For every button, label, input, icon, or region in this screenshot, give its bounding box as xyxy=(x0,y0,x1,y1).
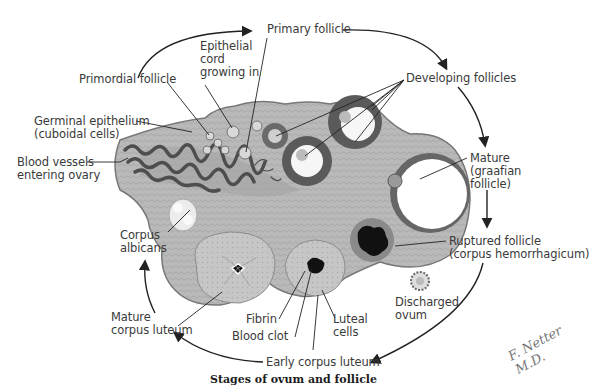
label-primary-follicle: Primary follicle xyxy=(267,23,351,36)
label-discharged-ovum: Discharged ovum xyxy=(395,296,459,322)
label-corpus-albicans: Corpus albicans xyxy=(120,229,167,255)
label-early-corpus-luteum: Early corpus luteum xyxy=(266,356,380,369)
label-primordial-follicle: Primordial follicle xyxy=(79,73,176,86)
label-ruptured-follicle: Ruptured follicle (corpus hemorrhagicum) xyxy=(449,235,589,261)
label-fibrin: Fibrin xyxy=(246,313,277,326)
label-blood-clot: Blood clot xyxy=(232,330,288,343)
discharged-ovum xyxy=(411,272,429,290)
label-epithelial-cord: Epithelial cord growing in xyxy=(200,40,259,79)
label-blood-vessels: Blood vessels entering ovary xyxy=(17,156,100,182)
label-germinal-epithelium: Germinal epithelium (cuboidal cells) xyxy=(34,115,150,141)
label-mature-corpus-luteum: Mature corpus luteum xyxy=(111,311,193,337)
label-developing-follicles: Developing follicles xyxy=(406,72,516,85)
ruptured-follicle xyxy=(350,218,394,262)
mature-corpus-luteum xyxy=(195,232,275,303)
figure-caption: Stages of ovum and follicle xyxy=(0,373,587,386)
label-luteal-cells: Luteal cells xyxy=(333,313,368,339)
label-mature-graafian-follicle: Mature (graafian follicle) xyxy=(470,152,521,191)
